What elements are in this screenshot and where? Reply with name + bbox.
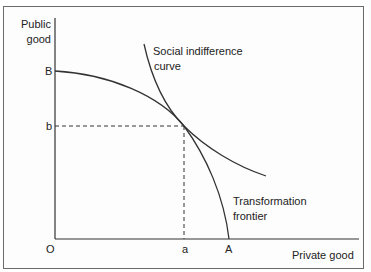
frontier-label-line1: Transformation	[233, 195, 307, 208]
indifference-curve-label-line1: Social indifference	[153, 45, 243, 58]
y-axis-label-line2: good	[12, 33, 51, 46]
y-axis-label-line1: Public	[12, 18, 51, 31]
x-axis-label: Private good	[292, 249, 354, 262]
point-B-label: B	[45, 65, 52, 78]
indifference-curve-label-line2: curve	[154, 60, 181, 73]
origin-label: O	[46, 243, 55, 256]
diagram-canvas	[0, 0, 371, 272]
point-b-label: b	[46, 120, 52, 133]
point-a-label: a	[182, 243, 188, 256]
transformation-frontier-curve	[55, 71, 229, 239]
point-A-label: A	[225, 243, 232, 256]
frontier-label-line2: frontier	[233, 210, 267, 223]
